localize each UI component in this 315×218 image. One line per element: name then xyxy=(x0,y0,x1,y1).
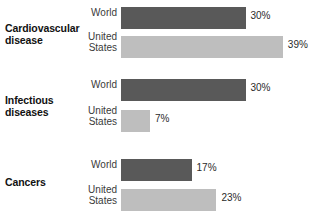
bar-row: United States 23% xyxy=(0,189,315,211)
series-label: United States xyxy=(60,184,117,206)
bar-value-label: 7% xyxy=(155,113,169,125)
bar-track xyxy=(121,159,192,181)
bar-value-label: 17% xyxy=(197,162,217,174)
category-group: Infectious diseases World 30% United Sta… xyxy=(0,68,315,144)
bar-row: United States 39% xyxy=(0,36,315,58)
bar-row: World 17% xyxy=(0,159,315,181)
series-label-line1: United xyxy=(60,184,117,195)
bar-united-states xyxy=(121,110,150,132)
bar-row: World 30% xyxy=(0,7,315,29)
bar-row: World 30% xyxy=(0,79,315,101)
bar-world xyxy=(121,159,192,181)
series-label: World xyxy=(60,159,117,170)
category-group: Cardiovascular disease World 30% United … xyxy=(0,0,315,68)
bar-world xyxy=(121,7,246,29)
bar-value-label: 39% xyxy=(288,39,308,51)
bar-united-states xyxy=(121,36,283,58)
bar-value-label: 30% xyxy=(251,82,271,94)
series-label-line2: States xyxy=(60,42,117,53)
series-label: World xyxy=(60,7,117,18)
series-label-line2: States xyxy=(60,195,117,206)
bar-track xyxy=(121,79,246,101)
series-label: United States xyxy=(60,31,117,53)
bar-value-label: 23% xyxy=(221,192,241,204)
category-group: Cancers World 17% United States 23% xyxy=(0,144,315,218)
series-label: World xyxy=(60,79,117,90)
bar-value-label: 30% xyxy=(251,10,271,22)
series-label-line2: States xyxy=(60,116,117,127)
bar-track xyxy=(121,189,216,211)
bar-track xyxy=(121,110,150,132)
bar-row: United States 7% xyxy=(0,110,315,132)
series-label-line1: United xyxy=(60,31,117,42)
bar-world xyxy=(121,79,246,101)
series-label-line1: United xyxy=(60,105,117,116)
series-label: United States xyxy=(60,105,117,127)
bar-track xyxy=(121,7,246,29)
bar-chart: Cardiovascular disease World 30% United … xyxy=(0,0,315,218)
bar-track xyxy=(121,36,283,58)
bar-united-states xyxy=(121,189,216,211)
